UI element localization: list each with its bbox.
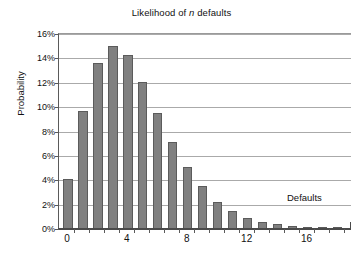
bar: [108, 46, 117, 229]
x-tick-mark: [254, 229, 255, 233]
bar: [228, 211, 237, 229]
chart-title: Likelihood of n defaults: [0, 7, 363, 18]
x-tick-mark: [149, 229, 150, 233]
bar: [198, 186, 207, 229]
bar: [138, 82, 147, 229]
bar: [78, 111, 87, 229]
bar: [63, 179, 72, 229]
x-tick-mark: [134, 229, 135, 233]
chart-figure: Likelihood of n defaults Probability 0%2…: [0, 0, 363, 266]
x-tick-label: 16: [301, 233, 312, 244]
x-tick-label: 12: [241, 233, 252, 244]
x-tick-label: 8: [184, 233, 190, 244]
bar: [93, 63, 102, 229]
x-axis-annotation-label: Defaults: [287, 192, 322, 203]
x-tick-mark: [299, 229, 300, 233]
x-tick-mark: [179, 229, 180, 233]
bar: [183, 167, 192, 229]
x-tick-mark: [329, 229, 330, 233]
x-tick-mark: [194, 229, 195, 233]
y-tick-mark: [55, 229, 59, 230]
y-tick-label: 0%: [42, 224, 55, 234]
y-tick-label: 2%: [42, 200, 55, 210]
x-tick-label: 0: [64, 233, 70, 244]
y-tick-label: 12%: [37, 78, 55, 88]
y-tick-label: 4%: [42, 175, 55, 185]
x-tick-mark: [104, 229, 105, 233]
x-tick-mark: [269, 229, 270, 233]
x-tick-mark: [164, 229, 165, 233]
y-tick-label: 10%: [37, 102, 55, 112]
y-tick-label: 8%: [42, 127, 55, 137]
x-tick-mark: [284, 229, 285, 233]
bar: [168, 142, 177, 229]
chart-title-prefix: Likelihood of: [132, 7, 189, 18]
bar: [153, 113, 162, 229]
x-axis-right-cap: [350, 222, 351, 229]
gridline: [59, 229, 351, 230]
x-tick-label: 4: [124, 233, 130, 244]
bar: [213, 202, 222, 229]
x-tick-mark: [314, 229, 315, 233]
y-tick-label: 6%: [42, 151, 55, 161]
x-axis-line: [58, 228, 351, 229]
x-tick-mark: [239, 229, 240, 233]
y-axis-title: Probability: [15, 34, 26, 154]
x-tick-mark: [209, 229, 210, 233]
y-tick-label: 16%: [37, 29, 55, 39]
chart-title-suffix: defaults: [194, 7, 231, 18]
y-tick-label: 14%: [37, 53, 55, 63]
x-tick-mark: [119, 229, 120, 233]
bar: [123, 55, 132, 229]
x-tick-mark: [89, 229, 90, 233]
x-tick-mark: [344, 229, 345, 233]
x-tick-mark: [74, 229, 75, 233]
x-tick-mark: [224, 229, 225, 233]
